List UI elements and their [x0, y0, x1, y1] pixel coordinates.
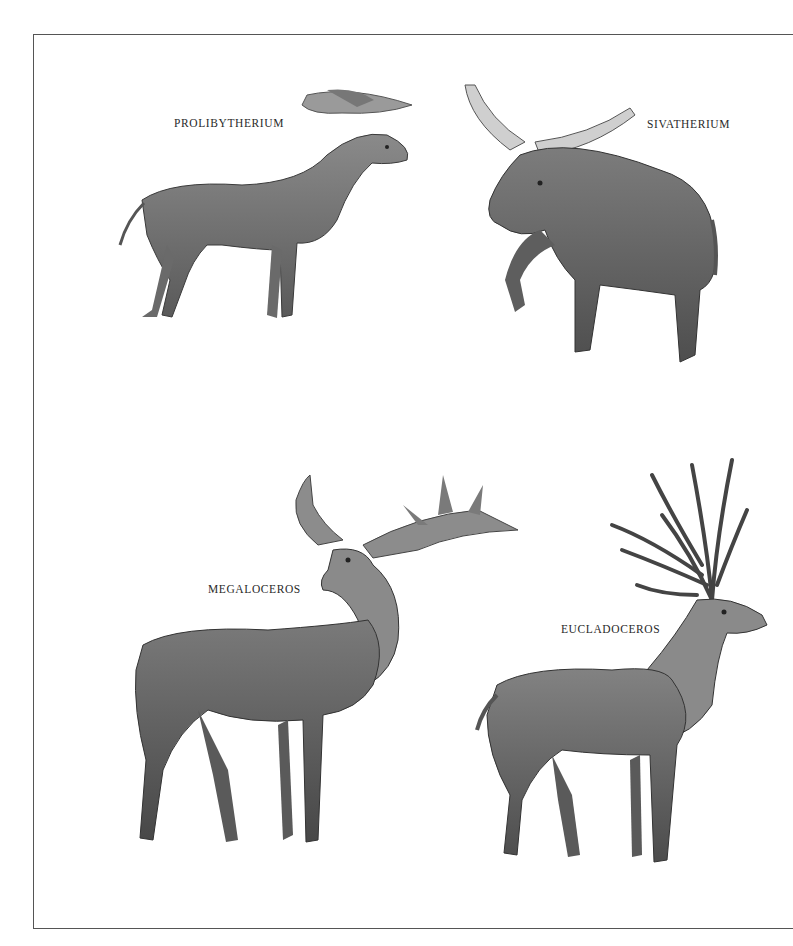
eucladoceros-figure-icon	[462, 455, 772, 865]
sivatherium-figure-icon	[460, 80, 725, 370]
prolibytherium-illustration	[112, 85, 417, 330]
sivatherium-illustration	[460, 80, 725, 370]
prolibytherium-figure-icon	[112, 85, 417, 330]
eucladoceros-illustration	[462, 455, 772, 865]
